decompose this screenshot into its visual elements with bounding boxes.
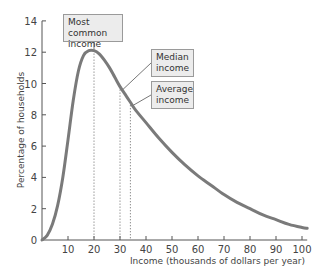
x-tick-label: 30 xyxy=(114,244,127,255)
callout-line-2: income xyxy=(68,39,118,50)
callout-line-2: income xyxy=(156,95,189,106)
y-tick-label: 10 xyxy=(24,79,37,90)
y-tick-label: 12 xyxy=(24,47,37,58)
guide-lines xyxy=(94,51,130,240)
callout-median-income: Median income xyxy=(151,49,194,77)
x-tick-label: 10 xyxy=(62,244,75,255)
x-tick-label: 70 xyxy=(218,244,231,255)
leader-median xyxy=(123,63,151,90)
callout-line-2: income xyxy=(156,63,189,74)
callout-most-common-income: Most common income xyxy=(63,14,123,42)
x-tick-label: 40 xyxy=(140,244,153,255)
x-tick-label: 60 xyxy=(192,244,205,255)
y-tick-label: 6 xyxy=(31,141,37,152)
x-tick-label: 80 xyxy=(244,244,257,255)
callout-line-1: Average xyxy=(156,84,189,95)
x-tick-label: 100 xyxy=(292,244,311,255)
leader-average xyxy=(133,95,151,105)
callout-average-income: Average income xyxy=(151,81,194,109)
y-tick-label: 0 xyxy=(31,235,37,246)
callout-line-1: Most common xyxy=(68,17,118,39)
y-tick-label: 14 xyxy=(24,16,37,27)
distribution-curve xyxy=(42,50,307,240)
x-tick-label: 20 xyxy=(88,244,101,255)
y-axis-label: Percentage of households xyxy=(16,72,26,189)
x-axis: 102030405060708090100 xyxy=(42,236,312,255)
y-tick-label: 4 xyxy=(31,172,37,183)
x-axis-label: Income (thousands of dollars per year) xyxy=(130,256,305,266)
x-tick-label: 90 xyxy=(270,244,283,255)
x-tick-label: 50 xyxy=(166,244,179,255)
callout-leaders xyxy=(94,42,151,105)
y-tick-label: 8 xyxy=(31,110,37,121)
callout-line-1: Median xyxy=(156,52,189,63)
income-distribution-chart: 02468101214 102030405060708090100 Percen… xyxy=(0,0,327,276)
y-tick-label: 2 xyxy=(31,204,37,215)
y-axis: 02468101214 xyxy=(24,16,46,246)
